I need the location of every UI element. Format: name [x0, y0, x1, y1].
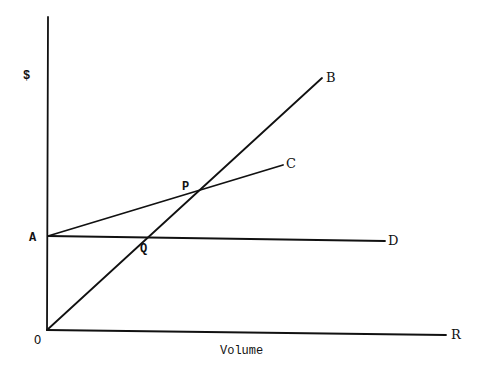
point-label-B: B [326, 70, 336, 85]
y-axis-label: $ [23, 69, 30, 83]
point-label-A: A [29, 231, 37, 245]
point-label-P: P [182, 180, 189, 194]
point-label-D: D [388, 233, 398, 248]
line-AC [48, 165, 283, 236]
line-OB [47, 78, 322, 330]
break-even-diagram: $ A O B C D R P Q Volume [0, 0, 482, 372]
x-axis-label: Volume [220, 344, 263, 358]
y-axis [47, 17, 48, 330]
point-label-R: R [451, 327, 462, 342]
point-label-O: O [34, 334, 41, 348]
point-label-C: C [286, 156, 296, 171]
line-AD [48, 236, 385, 241]
x-axis-OR [47, 330, 446, 335]
point-label-Q: Q [140, 242, 147, 256]
